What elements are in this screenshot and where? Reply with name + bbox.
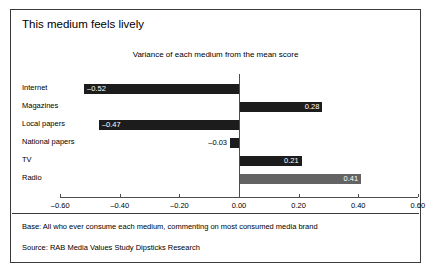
category-label: Internet — [22, 83, 47, 93]
category-label: Local papers — [22, 119, 65, 129]
category-label: TV — [22, 155, 32, 165]
category-label: National papers — [22, 137, 75, 147]
bar-internet — [84, 84, 239, 94]
bar-value-label: –0.52 — [87, 84, 106, 94]
chart-subtitle: Variance of each medium from the mean sc… — [11, 50, 420, 59]
x-axis-tick — [239, 194, 240, 197]
source-note: Source: RAB Media Values Study Dipsticks… — [22, 243, 200, 252]
category-label: Magazines — [22, 101, 58, 111]
x-axis-tick — [120, 194, 121, 197]
x-axis-tick-label: –0.40 — [100, 201, 140, 210]
x-axis-tick-label: –0.20 — [159, 201, 199, 210]
x-axis-line — [60, 197, 418, 198]
bar-value-label: 0.28 — [305, 102, 320, 112]
x-axis-tick — [358, 194, 359, 197]
page-title: This medium feels lively — [22, 18, 144, 30]
x-axis-tick-label: –0.60 — [40, 201, 80, 210]
bar-value-label: 0.41 — [344, 174, 359, 184]
slide-card: This medium feels lively Variance of eac… — [10, 9, 421, 263]
x-axis-tick-label: 0.60 — [398, 201, 433, 210]
x-axis-tick — [60, 194, 61, 197]
bar-chart: Internet–0.52Magazines0.28Local papers–0… — [11, 68, 420, 212]
footer-divider — [12, 213, 419, 214]
x-axis-tick-label: 0.00 — [219, 201, 259, 210]
x-axis-tick — [299, 194, 300, 197]
x-axis-tick-label: 0.40 — [338, 201, 378, 210]
bar-value-label: –0.03 — [208, 138, 227, 148]
bar-national-papers — [230, 138, 239, 148]
x-axis-tick — [418, 194, 419, 197]
base-note: Base: All who ever consume each medium, … — [22, 222, 318, 231]
bar-value-label: 0.21 — [284, 156, 299, 166]
zero-reference-line — [239, 74, 240, 197]
x-axis-tick — [179, 194, 180, 197]
category-label: Radio — [22, 173, 42, 183]
bar-value-label: –0.47 — [102, 120, 121, 130]
x-axis-tick-label: 0.20 — [279, 201, 319, 210]
